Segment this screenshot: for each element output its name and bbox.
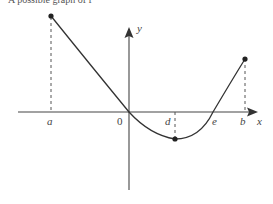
right-endpoint-dot [242, 56, 247, 61]
label-y-axis: y [136, 22, 142, 34]
label-a: a [47, 115, 53, 127]
label-origin: 0 [117, 115, 123, 127]
function-graph: a 0 d e b x y [0, 0, 273, 204]
label-e: e [212, 115, 217, 127]
minimum-dot [172, 136, 177, 141]
label-d: d [165, 115, 171, 127]
label-x-axis: x [256, 115, 262, 127]
left-endpoint-dot [48, 13, 53, 18]
label-b: b [240, 115, 246, 127]
